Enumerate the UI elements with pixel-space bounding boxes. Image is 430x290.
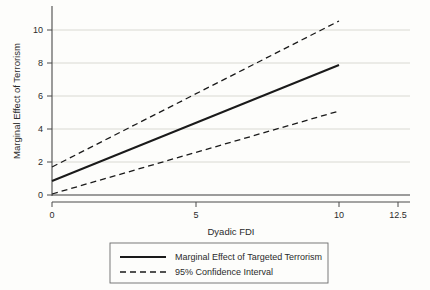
chart-legend: Marginal Effect of Targeted Terrorism 95…	[110, 243, 328, 283]
chart-svg: 10 8 6 4 2 0 0 5 10 12.5 Dyadic FDI Marg…	[0, 0, 430, 290]
y-axis-title: Marginal Effect of Terrorism	[11, 43, 22, 159]
upper-confidence-line	[52, 21, 339, 167]
y-tick-label-2: 2	[38, 157, 43, 167]
marginal-effect-chart: 10 8 6 4 2 0 0 5 10 12.5 Dyadic FDI Marg…	[0, 0, 430, 290]
y-tick-label-4: 4	[38, 124, 43, 134]
gridlines	[52, 30, 410, 162]
x-tick-label-12-5: 12.5	[389, 210, 407, 220]
y-tick-label-10: 10	[33, 25, 43, 35]
y-axis	[47, 6, 52, 196]
x-tick-label-0: 0	[49, 210, 54, 220]
legend-label-confidence-interval: 95% Confidence Interval	[175, 267, 273, 277]
x-axis	[52, 202, 410, 207]
y-tick-label-6: 6	[38, 91, 43, 101]
legend-label-marginal-effect: Marginal Effect of Targeted Terrorism	[175, 252, 322, 262]
legend-border	[110, 243, 328, 283]
y-tick-label-0: 0	[38, 190, 43, 200]
y-tick-label-8: 8	[38, 58, 43, 68]
x-axis-title: Dyadic FDI	[208, 226, 255, 237]
x-tick-label-5: 5	[193, 210, 198, 220]
x-tick-label-10: 10	[334, 210, 344, 220]
